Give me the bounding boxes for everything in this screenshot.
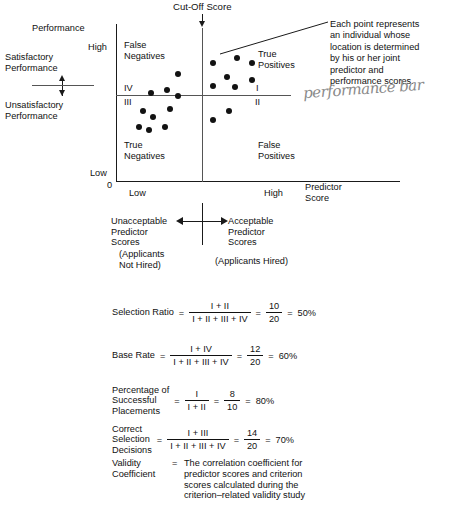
equals-sign: =: [174, 308, 189, 318]
quadrant-false-negatives-label: False Negatives: [124, 40, 165, 61]
scatter-point: [175, 93, 181, 99]
formula-result: 80%: [256, 396, 274, 406]
formula-label: Correct Selection Decisions: [112, 424, 152, 455]
validity-coefficient-equals: =: [172, 458, 177, 469]
scatter-point: [210, 83, 216, 89]
equals-sign: =: [209, 396, 224, 406]
equals-sign: =: [240, 396, 255, 406]
y-low-label: Low: [90, 168, 107, 179]
quadrant-true-negatives-label: True Negatives: [124, 140, 165, 161]
formula-result: 70%: [276, 435, 294, 445]
fraction-denominator: I + II + III + IV: [170, 356, 231, 367]
fraction-denominator: I + II + III + IV: [189, 313, 250, 324]
fraction-denominator-value: 20: [244, 440, 260, 451]
scatter-point: [167, 106, 173, 112]
y-axis-title: Performance: [32, 23, 85, 34]
satisfactory-performance-label: Satisfactory Performance: [5, 52, 58, 73]
fraction-denominator-value: 20: [266, 313, 282, 324]
fraction-numerator-value: 12: [247, 344, 263, 355]
scatter-point: [226, 108, 232, 114]
predictor-arrow-right-head: [221, 217, 228, 225]
equals-sign: =: [155, 351, 170, 361]
y-high-label: High: [88, 42, 107, 53]
fraction-numerator-value: 10: [266, 301, 282, 312]
scatter-point: [148, 90, 154, 96]
scatter-point: [210, 117, 216, 123]
scatter-point: [175, 71, 181, 77]
fraction-denominator: I + II: [185, 401, 209, 412]
formula-base-rate: Base Rate=I + IVI + II + III + IV=1220=6…: [112, 344, 297, 367]
performance-bracket-rule: [32, 85, 94, 86]
x-axis-line: [116, 181, 400, 182]
fraction-denominator: I + II + III + IV: [167, 440, 228, 451]
roman-numeral-iii: III: [124, 97, 132, 108]
cutoff-vertical-line: [202, 28, 203, 182]
unsatisfactory-arrow-head: [59, 90, 65, 96]
scatter-point: [162, 124, 168, 130]
formula-fraction-values: 1020: [266, 301, 282, 324]
origin-label: 0: [107, 180, 112, 191]
formula-fraction-terms: I + IIII + II + III + IV: [167, 428, 228, 451]
formula-percentage-successful-placements: Percentage of Successful Placements=II +…: [112, 385, 274, 416]
figure-root: Cut-Off Score Performance High Low 0 Sat…: [0, 0, 452, 507]
scatter-point: [232, 84, 238, 90]
formula-label: Percentage of Successful Placements: [112, 385, 169, 416]
predictor-arrow-left-head: [176, 217, 183, 225]
equals-sign: =: [152, 435, 167, 445]
roman-numeral-ii: II: [255, 97, 260, 108]
predictor-arrow-left-stem: [183, 221, 202, 222]
scatter-point: [210, 60, 216, 66]
x-high-label: High: [264, 188, 283, 199]
fraction-numerator: I + IV: [187, 344, 215, 355]
formula-fraction-values: 810: [224, 389, 240, 412]
formula-fraction-values: 1220: [247, 344, 263, 367]
applicants-hired-label: (Applicants Hired): [215, 256, 288, 267]
scatter-point: [140, 108, 146, 114]
formula-correct-selection-decisions: Correct Selection Decisions=I + IIII + I…: [112, 424, 294, 455]
validity-coefficient-definition: The correlation coefficient for predicto…: [184, 458, 305, 501]
unsatisfactory-performance-label: Unsatisfactory Performance: [5, 100, 63, 121]
formula-selection-ratio: Selection Ratio=I + III + II + III + IV=…: [112, 301, 316, 324]
fraction-denominator-value: 10: [224, 401, 240, 412]
scatter-point: [249, 77, 255, 83]
formula-label: Selection Ratio: [112, 307, 174, 317]
y-axis-line: [116, 24, 117, 182]
equals-sign: =: [282, 308, 297, 318]
scatter-point: [150, 114, 156, 120]
cutoff-arrow-head: [199, 21, 205, 27]
validity-coefficient-label: Validity Coefficient: [112, 458, 155, 480]
equals-sign: =: [263, 351, 278, 361]
annotation-leader-line: [220, 20, 330, 55]
scatter-point: [224, 74, 230, 80]
equals-sign: =: [251, 308, 266, 318]
formula-result: 60%: [279, 351, 297, 361]
predictor-divider-line: [202, 203, 203, 245]
equals-sign: =: [260, 435, 275, 445]
cutoff-score-title: Cut-Off Score: [173, 2, 231, 13]
formula-fraction-values: 1420: [244, 428, 260, 451]
fraction-denominator-value: 20: [247, 356, 263, 367]
formula-label: Base Rate: [112, 350, 155, 360]
scatter-point: [164, 87, 170, 93]
fraction-numerator: I + II: [208, 301, 232, 312]
equals-sign: =: [229, 435, 244, 445]
unacceptable-predictor-scores-label: Unacceptable Predictor Scores: [111, 216, 167, 248]
equals-sign: =: [232, 351, 247, 361]
fraction-numerator: I: [192, 389, 201, 400]
fraction-numerator: I + III: [185, 428, 212, 439]
acceptable-predictor-scores-label: Acceptable Predictor Scores: [228, 216, 273, 248]
handwritten-note: performance bar: [303, 76, 424, 102]
scatter-point: [234, 55, 240, 61]
fraction-numerator-value: 8: [227, 389, 238, 400]
x-axis-title: Predictor Score: [305, 182, 342, 203]
scatter-point: [249, 60, 255, 66]
x-low-label: Low: [129, 188, 146, 199]
formula-fraction-terms: I + IVI + II + III + IV: [170, 344, 231, 367]
formula-result: 50%: [298, 308, 316, 318]
predictor-arrow-right-stem: [202, 221, 221, 222]
formula-fraction-terms: II + II: [185, 389, 209, 412]
performance-split-line: [116, 95, 291, 96]
scatter-point: [146, 127, 152, 133]
scatter-point: [136, 124, 142, 130]
roman-numeral-i: I: [256, 83, 259, 94]
